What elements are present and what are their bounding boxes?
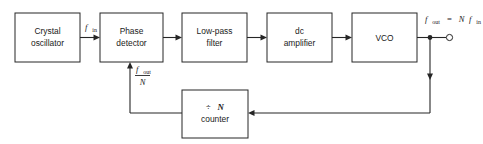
block-low-pass-filter: Low-pass filter xyxy=(182,13,247,62)
block-low-pass-filter-line2: filter xyxy=(207,38,223,48)
block-crystal-oscillator: Crystal oscillator xyxy=(15,13,80,62)
block-phase-detector-line2: detector xyxy=(116,38,146,48)
block-diagram-canvas: Crystal oscillator Phase detector Low-pa… xyxy=(0,0,483,144)
block-phase-detector-line1: Phase xyxy=(120,26,144,36)
arrowhead-feedback-into-counter xyxy=(248,110,255,116)
arrowhead-amplifier-to-vco xyxy=(346,35,353,41)
fraction-numerator-symbol: f xyxy=(136,64,140,74)
signal-f-out-subscript: out xyxy=(432,19,440,25)
block-dc-amplifier-line1: dc xyxy=(295,26,304,36)
block-vco: VCO xyxy=(352,13,417,62)
arrowhead-feedback-downward xyxy=(427,74,433,81)
signal-f-out-right-symbol: f xyxy=(469,14,473,24)
block-vco-label: VCO xyxy=(375,33,394,43)
signal-label-f-out: f out = N f in xyxy=(425,8,481,27)
signal-f-out-n: N xyxy=(458,14,466,24)
divide-symbol: ÷ xyxy=(206,102,211,112)
signal-label-f-in: f in xyxy=(85,16,97,33)
block-divide-n-counter: ÷ N counter xyxy=(182,90,248,138)
block-low-pass-filter-line1: Low-pass xyxy=(197,26,233,36)
arrowhead-osc-to-phase-detector xyxy=(94,35,101,41)
signal-f-in-symbol: f xyxy=(85,22,89,32)
fraction-numerator-subscript: out xyxy=(143,69,151,75)
block-diagram-figure: Crystal oscillator Phase detector Low-pa… xyxy=(0,0,483,144)
signal-f-out-right-subscript: in xyxy=(476,19,481,25)
signal-f-in-subscript: in xyxy=(92,27,97,33)
arrowhead-phase-detector-to-filter xyxy=(176,35,183,41)
signal-f-out-equals: = xyxy=(447,14,452,24)
block-divide-n-counter-line2: counter xyxy=(201,114,229,124)
block-dc-amplifier-line2: amplifier xyxy=(284,38,316,48)
fraction-denominator: N xyxy=(139,77,147,87)
arrowhead-feedback-into-phase-detector xyxy=(127,62,133,69)
block-phase-detector: Phase detector xyxy=(100,13,163,62)
divide-factor-n: N xyxy=(217,102,225,112)
arrowhead-filter-to-amplifier xyxy=(261,35,268,41)
signal-f-out-symbol: f xyxy=(425,14,429,24)
block-crystal-oscillator-line2: oscillator xyxy=(31,38,64,48)
block-dc-amplifier: dc amplifier xyxy=(267,13,332,62)
output-terminal-circle xyxy=(446,34,452,40)
block-crystal-oscillator-line1: Crystal xyxy=(34,26,60,36)
